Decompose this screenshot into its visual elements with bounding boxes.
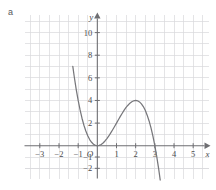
origin-label: O <box>87 149 94 159</box>
y-tick-label: 2 <box>88 118 92 128</box>
x-tick-label: −2 <box>54 149 63 159</box>
y-tick-label: 10 <box>84 28 93 38</box>
cubic-function-graph: −3−2−112345 −2−1246810 O x y <box>0 0 216 190</box>
x-tick-label: 5 <box>191 149 195 159</box>
x-tick-label: −1 <box>74 149 83 159</box>
y-axis-label: y <box>88 12 93 22</box>
x-tick-label: 4 <box>172 149 177 159</box>
x-tick-label: 1 <box>114 149 118 159</box>
x-axis-label: x <box>205 149 210 159</box>
y-tick-label: −2 <box>83 163 92 173</box>
x-tick-label: −3 <box>35 149 44 159</box>
y-tick-label: 6 <box>88 73 92 83</box>
y-axis-arrow <box>94 13 100 19</box>
x-tick-label: 2 <box>134 149 138 159</box>
figure-container: a −3−2−112345 −2−1246810 O x y <box>0 0 216 190</box>
y-tick-label: 8 <box>88 50 92 60</box>
y-tick-label: 4 <box>88 95 93 105</box>
x-axis-tick-labels: −3−2−112345 <box>35 149 195 159</box>
